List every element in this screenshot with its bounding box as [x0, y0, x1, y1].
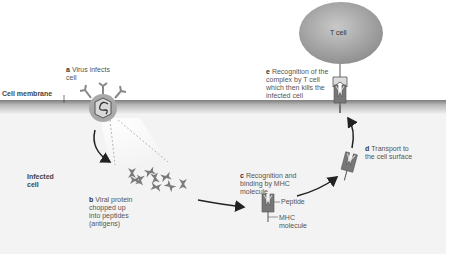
step-b-label: bViral protein chopped up into peptides … [89, 196, 133, 228]
peptide-callout: Peptide [281, 198, 305, 206]
step-c-label: cRecognition and binding by MHC molecule [240, 172, 297, 196]
infected-cell-label: Infected cell [27, 173, 54, 189]
diagram-canvas [0, 0, 467, 254]
antigen-presentation-diagram: Cell membrane Infected cell T cell aViru… [0, 0, 467, 254]
mhc-molecule-callout: MHC molecule [279, 214, 307, 230]
step-d-label: dTransport to the cell surface [365, 145, 412, 161]
cell-membrane-label: Cell membrane [2, 90, 52, 98]
step-a-label: aVirus infects cell [66, 66, 110, 82]
infected-cell-body [0, 100, 446, 254]
cell-membrane [0, 100, 446, 114]
step-e-label: eRecognition of the complex by T cell wh… [266, 68, 328, 100]
t-cell-label: T cell [330, 29, 347, 36]
